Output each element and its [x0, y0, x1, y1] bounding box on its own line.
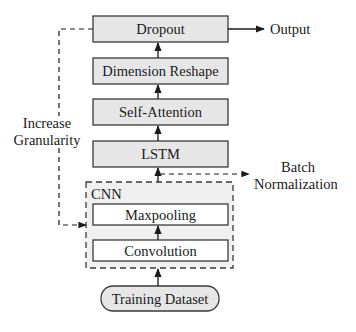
convolution-node: Convolution	[93, 240, 228, 261]
maxpooling-node: Maxpooling	[93, 204, 228, 225]
dropout-node: Dropout	[93, 16, 228, 42]
self-attention-node: Self-Attention	[93, 99, 228, 125]
architecture-diagram: CNN Dropout Dimension Reshape Self-Atten…	[0, 0, 356, 332]
batch-normalization-label-line1: Batch	[281, 159, 316, 175]
dimension-reshape-node: Dimension Reshape	[93, 58, 228, 84]
lstm-node: LSTM	[93, 141, 228, 167]
increase-granularity-label-line2: Granularity	[14, 132, 82, 148]
maxpooling-label: Maxpooling	[125, 207, 196, 223]
convolution-label: Convolution	[124, 243, 197, 259]
lstm-label: LSTM	[141, 146, 180, 162]
dropout-label: Dropout	[136, 21, 184, 37]
training-dataset-node: Training Dataset	[101, 286, 219, 311]
cnn-group-label: CNN	[91, 186, 122, 202]
dimension-reshape-label: Dimension Reshape	[102, 63, 218, 79]
training-dataset-label: Training Dataset	[112, 291, 209, 307]
increase-granularity-label-line1: Increase	[23, 115, 71, 131]
output-label: Output	[270, 21, 310, 37]
batch-normalization-label-line2: Normalization	[254, 176, 339, 192]
self-attention-label: Self-Attention	[119, 104, 203, 120]
